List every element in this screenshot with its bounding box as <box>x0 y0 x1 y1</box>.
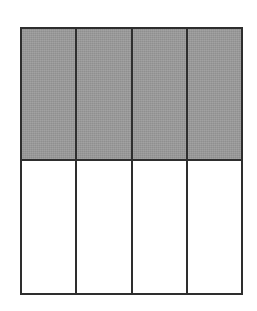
figure-canvas <box>0 0 257 311</box>
cell-r2-c4 <box>186 161 241 293</box>
cell-r2-c1 <box>22 161 75 293</box>
model-row-bottom-unshaded <box>22 159 241 293</box>
model-row-top-shaded <box>22 29 241 159</box>
fraction-area-model <box>20 27 243 295</box>
cell-r2-c2 <box>75 161 130 293</box>
cell-r2-c3 <box>131 161 186 293</box>
cell-r1-c1 <box>22 29 75 159</box>
cell-r1-c4 <box>186 29 241 159</box>
cell-r1-c3 <box>131 29 186 159</box>
cell-r1-c2 <box>75 29 130 159</box>
